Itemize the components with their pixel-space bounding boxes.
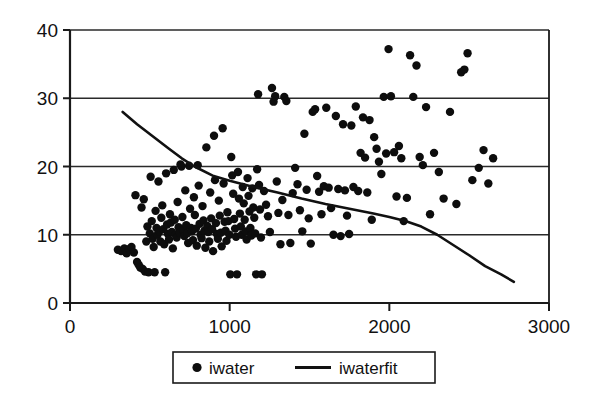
- data-point: [368, 216, 376, 224]
- data-point: [227, 153, 235, 161]
- data-point: [268, 84, 276, 92]
- data-point: [169, 244, 177, 252]
- data-point: [149, 243, 157, 251]
- data-point: [322, 104, 330, 112]
- data-point: [489, 154, 497, 162]
- data-point: [329, 231, 337, 239]
- data-point: [197, 234, 205, 242]
- data-point: [347, 121, 355, 129]
- data-point: [293, 180, 301, 188]
- data-point: [178, 213, 186, 221]
- x-tick-label-3000: 3000: [528, 316, 570, 337]
- data-point: [296, 206, 304, 214]
- data-point: [130, 248, 138, 256]
- data-point: [170, 166, 178, 174]
- data-point: [345, 230, 353, 238]
- data-point: [193, 241, 201, 249]
- data-point: [446, 108, 454, 116]
- data-point: [484, 179, 492, 187]
- data-point: [276, 240, 284, 248]
- data-point: [284, 211, 292, 219]
- data-point: [234, 168, 242, 176]
- data-point: [382, 149, 390, 157]
- data-point: [253, 165, 261, 173]
- data-point: [403, 194, 411, 202]
- data-point: [343, 211, 351, 219]
- fit-curve-path: [123, 112, 514, 282]
- data-point: [273, 177, 281, 185]
- data-point: [209, 247, 217, 255]
- data-point: [307, 239, 315, 247]
- data-point: [198, 202, 206, 210]
- data-point: [244, 192, 252, 200]
- scatter-points-group: [114, 45, 498, 279]
- legend-label-iwaterfit: iwaterfit: [339, 359, 398, 378]
- data-point: [313, 172, 321, 180]
- data-point: [430, 149, 438, 157]
- data-point: [397, 154, 405, 162]
- data-point: [298, 227, 306, 235]
- data-point: [409, 93, 417, 101]
- data-point: [361, 153, 369, 161]
- x-axis-ticks: 0100020003000: [65, 303, 570, 337]
- data-point: [291, 164, 299, 172]
- data-point: [223, 208, 231, 216]
- fit-curve-group: [123, 112, 514, 282]
- data-point: [300, 130, 308, 138]
- data-point: [148, 217, 156, 225]
- data-point: [250, 213, 258, 221]
- data-point: [365, 116, 373, 124]
- data-point: [262, 201, 270, 209]
- data-point: [332, 112, 340, 120]
- data-point: [463, 49, 471, 57]
- data-point: [311, 105, 319, 113]
- data-point: [479, 146, 487, 154]
- data-point: [177, 162, 185, 170]
- data-point: [419, 161, 427, 169]
- data-point: [240, 199, 248, 207]
- data-point: [205, 237, 213, 245]
- y-tick-label-40: 40: [37, 20, 58, 41]
- data-point: [194, 181, 202, 189]
- data-point: [352, 102, 360, 110]
- data-point: [286, 239, 294, 247]
- data-point: [243, 174, 251, 182]
- data-point: [171, 216, 179, 224]
- data-point: [162, 169, 170, 177]
- data-point: [266, 228, 274, 236]
- data-point: [336, 232, 344, 240]
- data-point: [161, 268, 169, 276]
- data-point: [202, 143, 210, 151]
- data-point: [439, 194, 447, 202]
- data-point: [406, 51, 414, 59]
- data-point: [395, 142, 403, 150]
- data-point: [387, 92, 395, 100]
- data-point: [218, 124, 226, 132]
- data-point: [354, 187, 362, 195]
- chart-legend: iwateriwaterfit: [173, 352, 435, 383]
- data-point: [271, 92, 279, 100]
- data-point: [191, 211, 199, 219]
- data-point: [305, 214, 313, 222]
- data-point: [370, 133, 378, 141]
- data-point: [146, 173, 154, 181]
- data-point: [317, 210, 325, 218]
- data-point: [140, 195, 148, 203]
- data-point: [257, 233, 265, 241]
- data-point: [363, 188, 371, 196]
- data-point: [215, 196, 223, 204]
- y-tick-label-10: 10: [37, 225, 58, 246]
- data-point: [274, 209, 282, 217]
- data-point: [392, 192, 400, 200]
- data-point: [339, 120, 347, 128]
- data-point: [210, 132, 218, 140]
- chart-canvas: 010203040 0100020003000 iwateriwaterfit: [0, 0, 602, 395]
- data-point: [435, 168, 443, 176]
- data-point: [264, 212, 272, 220]
- data-point: [452, 200, 460, 208]
- y-tick-label-20: 20: [37, 157, 58, 178]
- data-point: [412, 61, 420, 69]
- data-point: [137, 203, 145, 211]
- legend-marker-dot-icon: [192, 363, 201, 372]
- data-point: [212, 219, 220, 227]
